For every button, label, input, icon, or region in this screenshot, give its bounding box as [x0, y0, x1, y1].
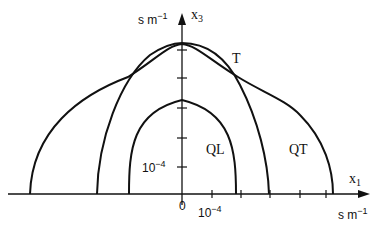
x3-arrow-icon [178, 13, 186, 25]
curve-label-ql: QL [206, 143, 225, 157]
curve-label-qt: QT [289, 143, 308, 157]
slowness-diagram: s m−1 x3 T QL QT 10−4 x1 0 10−4 s m−1 [0, 0, 379, 229]
x1-arrow-icon [358, 190, 370, 198]
curve-label-t: T [232, 52, 241, 66]
x1-unit-label: s m−1 [338, 207, 368, 221]
x1-tick-label: 10−4 [198, 205, 222, 219]
diagram-canvas [0, 0, 379, 229]
x3-unit-label: s m−1 [138, 12, 168, 26]
x3-axis-label: x3 [191, 8, 203, 24]
curve-t-inner [97, 43, 269, 194]
x3-tick-label: 10−4 [142, 160, 166, 174]
x1-axis-label: x1 [349, 172, 361, 188]
origin-label: 0 [179, 200, 186, 212]
